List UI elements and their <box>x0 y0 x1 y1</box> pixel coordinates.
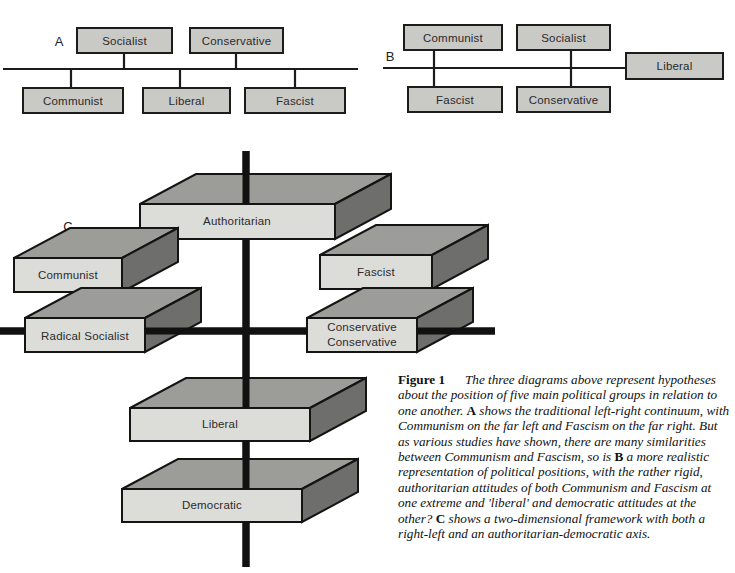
diagram-a-box-conservative[interactable]: Conservative <box>190 28 283 53</box>
caption-letter-c: C <box>436 511 446 526</box>
diagram-a-letter: A <box>55 34 64 49</box>
slab-label: Authoritarian <box>203 215 271 227</box>
slab-label: Liberal <box>202 418 238 430</box>
diagram-c-slab-conservative[interactable]: Conservative Conservative <box>307 288 473 352</box>
slab-label: Democratic <box>182 499 242 511</box>
diagram-b-box-socialist[interactable]: Socialist <box>517 25 610 50</box>
figure-canvas: A Socialist Conservative Communist Liber… <box>0 0 735 573</box>
diagram-c-slab-radical-socialist[interactable]: Radical Socialist <box>25 288 201 352</box>
box-label: Conservative <box>202 35 272 47</box>
caption-letter-b: B <box>615 449 624 464</box>
diagram-a-box-communist[interactable]: Communist <box>23 88 123 113</box>
caption-letter-a: A <box>467 403 477 418</box>
box-label: Communist <box>423 32 484 44</box>
diagram-b-box-conservative[interactable]: Conservative <box>517 87 610 112</box>
box-label: Conservative <box>529 94 599 106</box>
figure-caption: Figure 1The three diagrams above represe… <box>398 372 732 541</box>
diagram-b-letter: B <box>386 49 395 64</box>
diagram-a-box-liberal[interactable]: Liberal <box>143 88 230 113</box>
slab-label-duplicate: Conservative <box>327 336 397 348</box>
slab-label: Radical Socialist <box>41 330 129 342</box>
slab-label: Communist <box>38 269 99 281</box>
diagram-b-box-liberal[interactable]: Liberal <box>626 53 723 79</box>
box-label: Fascist <box>276 95 314 107</box>
diagram-a-box-socialist[interactable]: Socialist <box>77 28 172 53</box>
diagram-a-box-fascist[interactable]: Fascist <box>245 88 345 113</box>
diagram-c-slab-democratic[interactable]: Democratic <box>122 459 358 522</box>
box-label: Socialist <box>541 32 586 44</box>
diagram-b: B Communist Socialist Liberal Fascist <box>383 25 723 112</box>
slab-label: Conservative <box>327 321 397 333</box>
diagram-b-box-fascist[interactable]: Fascist <box>408 87 502 112</box>
diagram-b-box-communist[interactable]: Communist <box>404 25 502 50</box>
figure-number: Figure 1 <box>398 372 445 387</box>
box-label: Socialist <box>102 35 147 47</box>
box-label: Liberal <box>657 60 693 72</box>
diagram-c-slab-communist[interactable]: Communist <box>14 228 178 292</box>
caption-text-c: shows a two-dimensional framework with b… <box>398 511 705 541</box>
box-label: Fascist <box>436 94 474 106</box>
box-label: Liberal <box>169 95 205 107</box>
box-label: Communist <box>43 95 104 107</box>
diagram-a: A Socialist Conservative Communist Liber… <box>3 28 358 113</box>
slab-label: Fascist <box>357 266 395 278</box>
